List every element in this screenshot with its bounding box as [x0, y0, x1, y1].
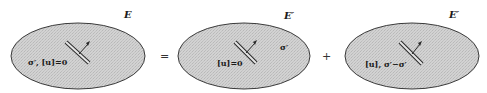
panel-part1: E′ [u]=0 σ′: [178, 10, 310, 89]
domain-ellipse: [11, 23, 145, 89]
panel-part2: E′ [u], σ′−σ′: [345, 9, 479, 89]
panel-total: E σ′, [u]=0: [11, 9, 145, 89]
domain-label: E′: [448, 9, 460, 20]
stress-label: σ′: [280, 42, 288, 52]
diagram-canvas: E σ′, [u]=0 = E′ [u]=0 σ′ + E′ [u], σ′−σ…: [0, 0, 487, 93]
domain-label: E: [123, 9, 132, 20]
equals-sign: =: [160, 50, 169, 63]
domain-label: E′: [283, 10, 295, 21]
condition-label: [u], σ′−σ′: [365, 59, 407, 69]
condition-label: [u]=0: [217, 58, 243, 68]
plus-sign: +: [322, 50, 331, 63]
condition-label: σ′, [u]=0: [28, 57, 68, 67]
domain-ellipse: [178, 23, 310, 89]
